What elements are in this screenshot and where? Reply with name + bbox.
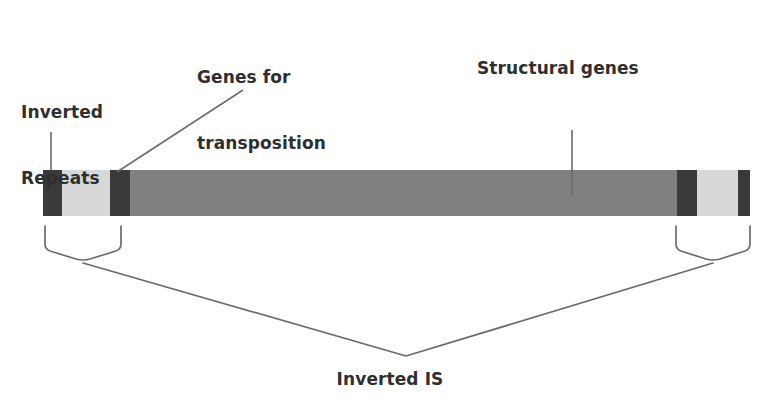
inverted-is-connector-path [83, 263, 713, 356]
is-brackets [45, 226, 750, 260]
label-inverted-repeats-line2: Repeats [21, 167, 103, 189]
label-genes-for-transposition-line1: Genes for [197, 66, 326, 88]
label-inverted-repeats: Inverted Repeats [21, 57, 103, 233]
segment-right-inverted-repeat-outer [738, 170, 750, 216]
label-genes-for-transposition-line2: transposition [197, 132, 326, 154]
segment-right-transposition-genes [697, 170, 738, 216]
right-is-bracket [676, 226, 750, 260]
diagram-canvas [0, 0, 777, 410]
segment-left-inverted-repeat-inner [110, 170, 130, 216]
segment-right-inverted-repeat-inner [677, 170, 697, 216]
label-structural-genes: Structural genes [477, 57, 639, 79]
label-genes-for-transposition: Genes for transposition [197, 22, 326, 198]
transposon-bar [43, 170, 750, 216]
label-inverted-is: Inverted IS [320, 368, 460, 390]
transposon-diagram: Inverted Repeats Genes for transposition… [0, 0, 777, 410]
inverted-is-connector [83, 263, 713, 356]
label-inverted-repeats-line1: Inverted [21, 101, 103, 123]
